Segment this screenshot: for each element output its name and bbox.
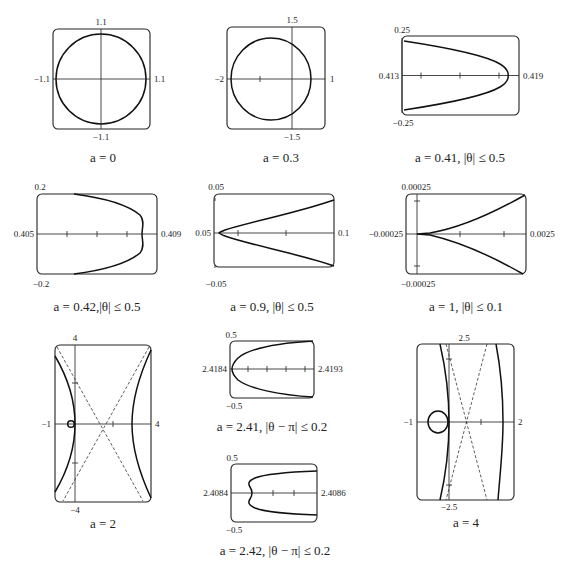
panel-a0: 1.1 −1.1 1.1 −1.1 a = 0	[34, 17, 166, 165]
tick-top: 0.25	[394, 25, 410, 35]
figure-grid: 1.1 −1.1 1.1 −1.1 a = 0 1.5 −2 1 −1.5 a …	[0, 0, 569, 567]
panel-a2: 4 −1 4 −4 a = 2	[41, 333, 160, 531]
tick-left: −1	[41, 419, 51, 429]
tick-right: 1	[330, 74, 335, 84]
tick-bottom: −1.5	[284, 132, 301, 142]
panel-a0.42: 0.2 0.405 0.409 −0.2 a = 0.42,|θ| ≤ 0.5	[14, 182, 182, 314]
caption: a = 0.42,|θ| ≤ 0.5	[54, 299, 141, 314]
tick-top: 4	[73, 333, 78, 343]
tick-top: 0.5	[226, 453, 238, 463]
panel-a2.42: 0.5 2.4084 2.4086 −0.5 a = 2.42, |θ − π|…	[203, 453, 346, 558]
tick-top: 0.05	[208, 182, 224, 192]
tick-left: 0.405	[14, 229, 35, 239]
tick-bottom: −0.2	[33, 279, 49, 289]
tick-bottom: −0.05	[206, 279, 227, 289]
caption: a = 2.42, |θ − π| ≤ 0.2	[220, 543, 331, 558]
tick-left: −2	[214, 74, 224, 84]
tick-right: 2	[518, 417, 523, 427]
tick-top: 1.5	[286, 15, 298, 25]
tick-bottom: −4	[70, 505, 80, 515]
panel-a0.3: 1.5 −2 1 −1.5 a = 0.3	[214, 15, 334, 165]
caption: a = 4	[453, 515, 480, 530]
tick-bottom: −0.5	[226, 525, 243, 535]
caption: a = 1, |θ| ≤ 0.1	[429, 299, 503, 314]
caption: a = 0.9, |θ| ≤ 0.5	[230, 299, 314, 314]
tick-right: 1.1	[154, 74, 165, 84]
tick-left: −1.1	[34, 74, 50, 84]
panel-a2.41: 0.5 2.4184 2.4193 −0.5 a = 2.41, |θ − π|…	[202, 330, 343, 434]
caption: a = 0	[90, 150, 116, 165]
caption: a = 2	[90, 516, 116, 531]
tick-right: 4	[155, 419, 160, 429]
tick-bottom: −1.1	[93, 132, 109, 142]
tick-bottom: −0.25	[393, 118, 414, 128]
tick-left: 0.05	[195, 228, 211, 238]
plot-frame	[55, 345, 151, 502]
tick-right: 0.409	[161, 229, 182, 239]
tick-top: 0.00025	[401, 182, 431, 192]
plot-frame	[230, 341, 314, 398]
curve	[417, 195, 525, 274]
panel-a1: 0.00025 −0.00025 0.0025 −0.00025 a = 1, …	[369, 182, 556, 314]
tick-top: 1.1	[95, 17, 106, 27]
tick-top: 2.5	[458, 333, 470, 343]
panel-a0.9: 0.05 0.05 0.1 −0.05 a = 0.9, |θ| ≤ 0.5	[195, 182, 349, 314]
tick-right: 0.419	[523, 71, 544, 81]
tick-right: 0.1	[338, 228, 349, 238]
panel-a4: 2.5 −1 2 −2.5 a = 4	[403, 333, 522, 530]
panel-a0.41: 0.25 0.413 0.419 −0.25 a = 0.41, |θ| ≤ 0…	[379, 25, 544, 165]
tick-right: 2.4086	[321, 488, 346, 498]
tick-right: 2.4193	[318, 364, 343, 374]
tick-top: 0.2	[34, 182, 45, 192]
caption: a = 2.41, |θ − π| ≤ 0.2	[217, 419, 328, 434]
tick-right: 0.0025	[530, 229, 555, 239]
tick-left: 0.413	[379, 71, 400, 81]
tick-top: 0.5	[225, 330, 237, 340]
tick-left: −0.00025	[369, 229, 404, 239]
tick-left: 2.4084	[203, 488, 228, 498]
tick-left: −1	[403, 417, 413, 427]
tick-bottom: −0.00025	[401, 279, 436, 289]
tick-bottom: −2.5	[441, 502, 458, 512]
tick-bottom: −0.5	[226, 401, 243, 411]
tick-left: 2.4184	[202, 364, 227, 374]
caption: a = 0.41, |θ| ≤ 0.5	[415, 150, 505, 165]
caption: a = 0.3	[263, 150, 299, 165]
